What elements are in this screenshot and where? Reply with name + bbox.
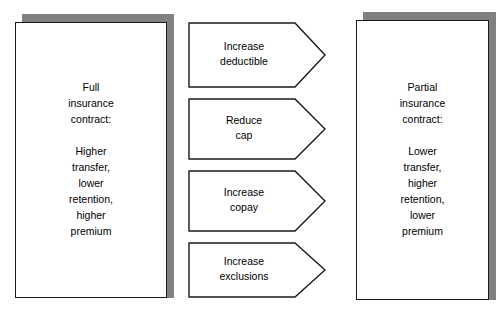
reduce-cap-arrow[interactable]: Reduce cap	[188, 98, 326, 160]
partial-insurance-contract-label: Partial insurance contract: Lower transf…	[392, 80, 454, 240]
diagram-canvas: Full insurance contract: Higher transfer…	[0, 0, 504, 315]
reduce-cap-label: Reduce cap	[188, 113, 300, 143]
full-insurance-contract-box[interactable]: Full insurance contract: Higher transfer…	[15, 22, 167, 298]
increase-exclusions-arrow[interactable]: Increase exclusions	[188, 242, 326, 298]
partial-insurance-contract-box[interactable]: Partial insurance contract: Lower transf…	[356, 20, 489, 300]
full-insurance-contract-label: Full insurance contract: Higher transfer…	[60, 80, 122, 240]
increase-deductible-arrow[interactable]: Increase deductible	[188, 22, 326, 88]
increase-deductible-label: Increase deductible	[188, 39, 300, 69]
increase-copay-label: Increase copay	[188, 185, 300, 215]
increase-exclusions-label: Increase exclusions	[188, 254, 300, 284]
increase-copay-arrow[interactable]: Increase copay	[188, 170, 326, 232]
